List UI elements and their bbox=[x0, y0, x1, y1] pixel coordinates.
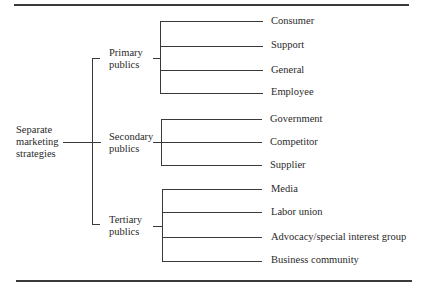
primary-bracket bbox=[160, 21, 161, 94]
main-bracket-bottom-hook bbox=[92, 224, 100, 225]
secondary-stub bbox=[153, 142, 161, 143]
group-label-tertiary-line-1: Tertiary bbox=[109, 214, 142, 226]
tertiary-branch-4 bbox=[162, 261, 262, 262]
main-bracket-top-hook bbox=[92, 58, 100, 59]
leaf-business-community: Business community bbox=[271, 254, 359, 266]
group-label-tertiary: Tertiary publics bbox=[109, 214, 142, 238]
tertiary-stub bbox=[153, 226, 162, 227]
tertiary-branch-2 bbox=[162, 212, 262, 213]
root-label-line-3: strategies bbox=[16, 148, 59, 160]
leaf-government: Government bbox=[270, 113, 323, 125]
group-label-primary-line-2: publics bbox=[109, 59, 143, 71]
leaf-employee: Employee bbox=[271, 86, 314, 98]
leaf-advocacy: Advocacy/special interest group bbox=[271, 231, 406, 243]
group-label-secondary-line-2: publics bbox=[109, 143, 153, 155]
leaf-consumer: Consumer bbox=[271, 15, 314, 27]
leaf-labor-union: Labor union bbox=[271, 206, 323, 218]
group-label-primary: Primary publics bbox=[109, 47, 143, 71]
leaf-supplier: Supplier bbox=[270, 159, 306, 171]
group-label-primary-line-1: Primary bbox=[109, 47, 143, 59]
group-label-tertiary-line-2: publics bbox=[109, 226, 142, 238]
secondary-branch-1 bbox=[161, 119, 262, 120]
top-rule bbox=[14, 4, 409, 6]
leaf-general: General bbox=[271, 64, 304, 76]
root-label: Separate marketing strategies bbox=[16, 124, 59, 160]
bottom-rule bbox=[16, 280, 412, 282]
group-label-secondary: Secondary publics bbox=[109, 131, 153, 155]
group-label-secondary-line-1: Secondary bbox=[109, 131, 153, 143]
tertiary-branch-3 bbox=[162, 237, 262, 238]
leaf-support: Support bbox=[271, 39, 304, 51]
primary-branch-3 bbox=[160, 70, 263, 71]
primary-branch-1 bbox=[160, 21, 263, 22]
root-connector bbox=[63, 142, 101, 143]
tertiary-branch-1 bbox=[162, 189, 262, 190]
primary-branch-2 bbox=[160, 46, 263, 47]
root-label-line-2: marketing bbox=[16, 136, 59, 148]
root-label-line-1: Separate bbox=[16, 124, 59, 136]
leaf-competitor: Competitor bbox=[270, 136, 318, 148]
tertiary-bracket bbox=[162, 189, 163, 262]
secondary-branch-3 bbox=[161, 165, 262, 166]
leaf-media: Media bbox=[271, 183, 298, 195]
main-bracket bbox=[92, 58, 93, 225]
primary-branch-4 bbox=[160, 93, 263, 94]
secondary-branch-2 bbox=[161, 142, 262, 143]
